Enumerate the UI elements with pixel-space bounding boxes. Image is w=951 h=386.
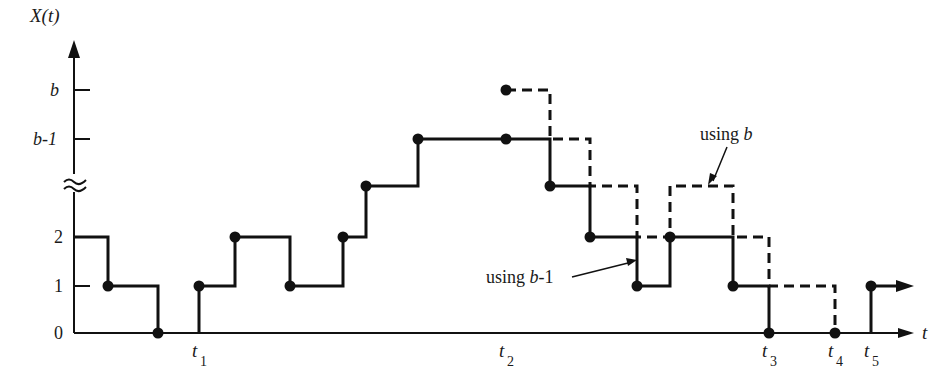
svg-text:5: 5 [872, 354, 879, 369]
event-dot [728, 281, 739, 292]
event-dot [361, 181, 372, 192]
x-label-t3: t 3 [762, 340, 777, 369]
event-dot [230, 232, 241, 243]
svg-text:using b-1: using b-1 [486, 267, 554, 287]
event-dot [665, 232, 676, 243]
annotation-using-b: using b [700, 124, 753, 185]
x-label-t1: t 1 [192, 340, 207, 369]
continuation-arrow-icon [896, 280, 914, 292]
y-axis-label: X(t) [29, 5, 60, 27]
event-dot [285, 281, 296, 292]
event-dot [194, 281, 205, 292]
y-label-b: b [50, 80, 59, 100]
svg-text:t: t [192, 340, 198, 361]
svg-text:2: 2 [507, 354, 514, 369]
y-label-2: 2 [54, 227, 63, 247]
svg-text:3: 3 [770, 354, 777, 369]
y-label-0: 0 [54, 323, 63, 343]
event-dot [632, 281, 643, 292]
svg-text:t: t [864, 340, 870, 361]
svg-text:using b: using b [700, 124, 753, 144]
event-dot [501, 134, 512, 145]
event-dot [103, 281, 114, 292]
event-dots [103, 85, 877, 339]
svg-text:t: t [762, 340, 768, 361]
annotation-using-b-minus-1: using b-1 [486, 258, 637, 287]
event-dot [764, 328, 775, 339]
svg-text:t: t [828, 340, 834, 361]
pointer-arrow-icon [626, 258, 637, 266]
event-dot [501, 85, 512, 96]
diagram-canvas: X(t) b b-1 2 1 0 t 1 t 2 t 3 t 4 t 5 t u… [0, 0, 951, 386]
y-label-b-minus-1: b-1 [33, 129, 57, 149]
event-dot [585, 232, 596, 243]
svg-text:t: t [499, 340, 505, 361]
solid-path-using-b-minus-1 [74, 139, 900, 333]
event-dot [830, 328, 841, 339]
axis-break-icon [64, 180, 86, 185]
y-label-1: 1 [54, 276, 63, 296]
x-axis-arrow-icon [898, 328, 914, 338]
x-label-t4: t 4 [828, 340, 843, 369]
event-dot [153, 328, 164, 339]
y-axis [64, 40, 90, 333]
x-label-t2: t 2 [499, 340, 514, 369]
event-dot [866, 281, 877, 292]
event-dot [545, 181, 556, 192]
event-dot [413, 134, 424, 145]
x-axis-label: t [922, 322, 928, 343]
svg-text:4: 4 [836, 354, 843, 369]
svg-text:1: 1 [200, 354, 207, 369]
event-dot [338, 232, 349, 243]
x-label-t5: t 5 [864, 340, 879, 369]
y-axis-arrow-icon [68, 40, 80, 58]
dashed-path-using-b [506, 90, 835, 333]
